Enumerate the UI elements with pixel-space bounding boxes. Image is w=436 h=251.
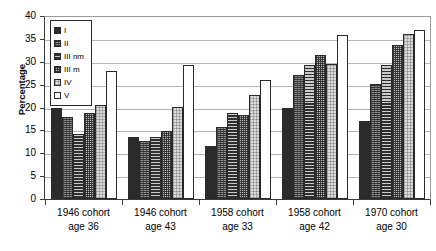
bar-iii-m	[315, 55, 326, 199]
bar-ii	[139, 141, 150, 199]
x-axis-label: 1970 cohortage 30	[353, 206, 430, 234]
x-axis-label-line2: age 33	[199, 220, 276, 234]
y-tick-mark	[40, 39, 44, 40]
x-tick-mark	[276, 200, 277, 205]
x-axis-label-line1: 1958 cohort	[211, 207, 264, 218]
bar-group	[276, 16, 353, 199]
y-tick-label: 10	[10, 148, 36, 158]
bar-i	[359, 121, 370, 199]
y-tick-label: 20	[10, 103, 36, 113]
x-tick-mark	[430, 200, 431, 205]
bar-v	[260, 80, 271, 199]
legend-swatch-icon	[54, 66, 61, 73]
bar-iii-nm	[73, 134, 84, 199]
bar-ii	[293, 75, 304, 199]
y-tick-mark	[40, 130, 44, 131]
bar-chart: Percentage 0510152025303540 1946 cohorta…	[0, 0, 436, 251]
x-axis-label-line2: age 36	[45, 220, 122, 234]
bar-set	[359, 16, 425, 199]
y-tick-label: 5	[10, 171, 36, 181]
legend-item: V	[54, 89, 89, 102]
x-axis-label: 1958 cohortage 42	[276, 206, 353, 234]
bar-group	[199, 16, 276, 199]
x-axis-label-line2: age 30	[353, 220, 430, 234]
x-axis-label-line1: 1958 cohort	[288, 207, 341, 218]
bar-ii	[216, 127, 227, 199]
x-axis-label: 1958 cohortage 33	[199, 206, 276, 234]
y-tick-mark	[40, 85, 44, 86]
bar-ii	[370, 84, 381, 199]
x-tick-mark	[45, 200, 46, 205]
x-axis-label-line2: age 43	[122, 220, 199, 234]
legend-label: V	[64, 92, 69, 100]
bar-iii-nm	[227, 113, 238, 199]
y-tick-label: 0	[10, 194, 36, 204]
bar-v	[337, 35, 348, 199]
y-tick-label: 15	[10, 125, 36, 135]
bar-iv	[95, 105, 106, 199]
bar-set	[205, 16, 271, 199]
legend-item: II	[54, 37, 89, 50]
bar-iii-nm	[150, 137, 161, 199]
legend-label: I	[64, 27, 66, 35]
x-tick-mark	[122, 200, 123, 205]
bar-iii-nm	[381, 65, 392, 200]
bar-ii	[62, 117, 73, 199]
bar-group	[353, 16, 430, 199]
bar-i	[128, 137, 139, 199]
y-tick-label: 30	[10, 57, 36, 67]
legend-label: III nm	[64, 53, 84, 61]
legend-item: I	[54, 24, 89, 37]
y-tick-label: 40	[10, 11, 36, 21]
bar-groups	[45, 16, 430, 199]
bar-set	[128, 16, 194, 199]
bar-iii-m	[161, 131, 172, 199]
bar-iv	[326, 64, 337, 199]
bar-v	[183, 65, 194, 199]
y-tick-mark	[40, 176, 44, 177]
legend-swatch-icon	[54, 92, 61, 99]
chart-legend: IIIIII nmIII mIVV	[50, 20, 92, 106]
bar-v	[106, 71, 117, 199]
x-axis-label: 1946 cohortage 43	[122, 206, 199, 234]
bar-iv	[403, 34, 414, 199]
x-tick-mark	[353, 200, 354, 205]
bar-i	[51, 108, 62, 200]
y-tick-mark	[40, 16, 44, 17]
bar-iii-m	[84, 113, 95, 199]
y-tick-label: 35	[10, 34, 36, 44]
y-tick-mark	[40, 199, 44, 200]
legend-item: III nm	[54, 50, 89, 63]
x-axis-label: 1946 cohortage 36	[45, 206, 122, 234]
x-tick-mark	[199, 200, 200, 205]
bar-i	[205, 146, 216, 199]
legend-swatch-icon	[54, 53, 61, 60]
legend-label: IV	[64, 79, 72, 87]
bar-iv	[172, 107, 183, 199]
legend-label: II	[64, 40, 68, 48]
y-tick-mark	[40, 62, 44, 63]
x-axis-label-line1: 1970 cohort	[365, 207, 418, 218]
legend-item: IV	[54, 76, 89, 89]
y-tick-mark	[40, 153, 44, 154]
legend-label: III m	[64, 66, 80, 74]
bar-iii-nm	[304, 65, 315, 199]
bar-iii-m	[238, 115, 249, 199]
legend-swatch-icon	[54, 79, 61, 86]
x-axis-label-line2: age 42	[276, 220, 353, 234]
bar-group	[122, 16, 199, 199]
legend-swatch-icon	[54, 40, 61, 47]
x-axis-label-line1: 1946 cohort	[134, 207, 187, 218]
bar-iv	[249, 95, 260, 199]
x-axis-labels: 1946 cohortage 361946 cohortage 431958 c…	[45, 206, 430, 234]
y-tick-mark	[40, 108, 44, 109]
bar-i	[282, 108, 293, 199]
bar-set	[282, 16, 348, 199]
bar-v	[414, 30, 425, 199]
y-tick-label: 25	[10, 80, 36, 90]
x-axis-label-line1: 1946 cohort	[57, 207, 110, 218]
legend-item: III m	[54, 63, 89, 76]
legend-swatch-icon	[54, 27, 61, 34]
bar-iii-m	[392, 45, 403, 199]
